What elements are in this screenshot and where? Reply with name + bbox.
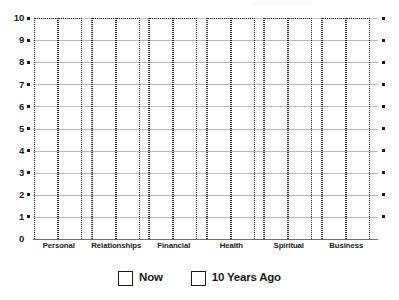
y-tick-dot-icon bbox=[27, 149, 30, 152]
y-tick: 7 bbox=[19, 78, 33, 90]
x-label-business: Business bbox=[318, 240, 376, 252]
right-tick-dot-icon bbox=[382, 215, 385, 218]
y-tick-label: 10 bbox=[14, 13, 24, 23]
legend-swatch-icon bbox=[191, 271, 206, 286]
chart-legend: Now 10 Years Ago bbox=[0, 265, 399, 291]
y-tick-dot-icon bbox=[27, 105, 30, 108]
right-axis-ticks bbox=[378, 18, 392, 239]
y-tick-label: 3 bbox=[19, 168, 24, 178]
legend-label-10-years-ago: 10 Years Ago bbox=[212, 272, 281, 284]
x-label-health: Health bbox=[203, 240, 261, 252]
y-tick-dot-icon bbox=[27, 83, 30, 86]
bar-slot-financial-now[interactable] bbox=[149, 18, 173, 239]
bar-slot-spiritual-now[interactable] bbox=[264, 18, 288, 239]
bar-slot-relationships-10-years-ago[interactable] bbox=[116, 18, 140, 239]
bar-chart: 10 9 8 7 6 5 4 3 bbox=[0, 0, 399, 300]
bar-slot-health-10-years-ago[interactable] bbox=[231, 18, 255, 239]
bar-slot-personal-10-years-ago[interactable] bbox=[58, 18, 82, 239]
right-tick-dot-icon bbox=[382, 105, 385, 108]
bar-slot-health-now[interactable] bbox=[207, 18, 231, 239]
bar-slot-spiritual-10-years-ago[interactable] bbox=[288, 18, 312, 239]
y-tick-dot-icon bbox=[27, 17, 30, 20]
y-tick-dot-icon bbox=[27, 61, 30, 64]
y-tick-dot-icon bbox=[27, 193, 30, 196]
y-tick-label: 5 bbox=[19, 124, 24, 134]
y-tick-label: 1 bbox=[19, 212, 24, 222]
y-tick-label: 0 bbox=[19, 234, 24, 244]
y-tick: 4 bbox=[19, 145, 33, 157]
bar-slot-business-10-years-ago[interactable] bbox=[346, 18, 370, 239]
y-tick-dot-icon bbox=[27, 127, 30, 130]
y-tick-label: 8 bbox=[19, 57, 24, 67]
y-tick: 3 bbox=[19, 167, 33, 179]
y-tick-label: 4 bbox=[19, 146, 24, 156]
top-artifact bbox=[252, 1, 312, 6]
y-tick-dot-icon bbox=[27, 171, 30, 174]
right-tick-dot-icon bbox=[382, 127, 385, 130]
right-tick-dot-icon bbox=[382, 83, 385, 86]
y-tick: 2 bbox=[19, 189, 33, 201]
x-axis: Personal Relationships Financial Health … bbox=[33, 240, 378, 256]
y-tick-dot-icon bbox=[27, 215, 30, 218]
right-tick-dot-icon bbox=[382, 39, 385, 42]
y-tick: 5 bbox=[19, 123, 33, 135]
y-tick-label: 6 bbox=[19, 102, 24, 112]
right-tick-dot-icon bbox=[382, 17, 385, 20]
y-tick-label: 7 bbox=[19, 80, 24, 90]
y-tick: 8 bbox=[19, 56, 33, 68]
x-label-spiritual: Spiritual bbox=[260, 240, 318, 252]
y-tick: 1 bbox=[19, 211, 33, 223]
y-tick: 10 bbox=[14, 12, 33, 24]
bar-slot-relationships-now[interactable] bbox=[92, 18, 116, 239]
y-tick-dot-icon bbox=[27, 39, 30, 42]
plot-area bbox=[33, 18, 378, 239]
bar-slot-financial-10-years-ago[interactable] bbox=[173, 18, 197, 239]
bar-slot-personal-now[interactable] bbox=[34, 18, 58, 239]
x-label-financial: Financial bbox=[145, 240, 203, 252]
y-tick: 9 bbox=[19, 34, 33, 46]
right-tick-dot-icon bbox=[382, 193, 385, 196]
right-tick-dot-icon bbox=[382, 171, 385, 174]
y-tick-label: 9 bbox=[19, 35, 24, 45]
x-label-personal: Personal bbox=[30, 240, 88, 252]
y-tick: 6 bbox=[19, 100, 33, 112]
legend-label-now: Now bbox=[139, 272, 163, 284]
y-tick-label: 2 bbox=[19, 190, 24, 200]
x-label-relationships: Relationships bbox=[88, 240, 146, 252]
right-tick-dot-icon bbox=[382, 61, 385, 64]
legend-item-now[interactable]: Now bbox=[118, 271, 163, 286]
legend-swatch-icon bbox=[118, 271, 133, 286]
y-axis: 10 9 8 7 6 5 4 3 bbox=[0, 18, 33, 239]
right-tick-dot-icon bbox=[382, 149, 385, 152]
bar-slot-business-now[interactable] bbox=[322, 18, 346, 239]
legend-item-10-years-ago[interactable]: 10 Years Ago bbox=[191, 271, 281, 286]
